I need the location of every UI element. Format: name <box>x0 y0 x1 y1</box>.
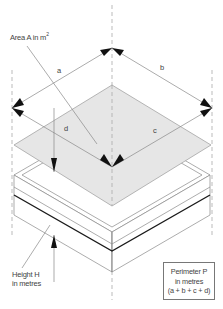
height-label: Height H in metres <box>12 270 41 288</box>
side-d-label: d <box>64 124 68 133</box>
perimeter-box: Perimeter P in metres (a + b + c + d) <box>163 262 215 300</box>
side-a-label: a <box>57 66 61 75</box>
area-label: Area A in m2 <box>10 30 49 42</box>
side-b-label: b <box>160 63 164 72</box>
side-c-label: c <box>153 126 157 135</box>
